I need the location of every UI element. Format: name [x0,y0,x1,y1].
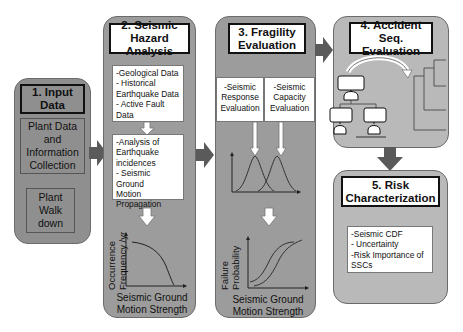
hazard-inputs-box: -Geological Data - Historical Earthquake… [112,65,184,122]
title-line: 1. Input [32,86,73,99]
seismic-hazard-title: 2. SeismicHazard Analysis [109,23,190,54]
text-line: Plant Data [26,120,79,133]
arrow-down-icon [276,122,286,156]
text-line: - Uncertainty [351,239,429,249]
text-line: -Seismic CDF [351,229,429,239]
text-line: Response [220,92,260,102]
text-line: -Geological Data [116,68,180,78]
text-line: - Active Fault [116,99,180,109]
hazard-curve-chart [124,232,188,288]
arrow-right-icon [196,142,214,168]
seismic-response-box: -Seismic Response Evaluation [216,77,264,122]
seismic-capacity-box: -Seismic Capacity Evaluation [264,77,315,122]
text-line: Frequency /yr [117,232,128,290]
text-line: Information [26,146,79,159]
text-line: Evaluation [268,103,311,113]
text-line: -Risk Importance of [351,250,429,260]
text-line: -Seismic [220,82,260,92]
text-line: Collection [26,159,79,172]
hazard-y-axis-label: Occurrence Frequency /yr [106,232,128,290]
fragility-x-axis-label: Seismic Ground Motion Strength [222,294,314,318]
arrow-down-icon [139,208,155,226]
text-line: -Analysis of [116,137,180,147]
risk-characterization-title: 5. RiskCharacterization [341,176,440,207]
text-line: Probability [230,246,241,290]
text-line: Walk [38,204,63,217]
text-line: - Historical [116,78,180,88]
plant-walkdown-box: Plant Walk down [26,188,75,233]
plant-data-collection-box: Plant Data and Information Collection [20,118,85,174]
text-line: Motion [116,189,180,199]
text-line: -Seismic [268,82,311,92]
title-line: 4. Accident [351,19,431,32]
text-line: Occurrence [106,232,117,290]
arrow-down-icon [261,208,277,226]
arrow-right-icon [315,37,333,63]
risk-results-box: -Seismic CDF - Uncertainty -Risk Importa… [347,226,433,273]
title-line: Data [32,99,73,112]
title-line: Seq. Evaluation [351,32,431,58]
text-line: Capacity [268,92,311,102]
fault-event-tree-diagram [334,58,448,142]
text-line: Earthquake [116,147,180,157]
fragility-curve-chart [246,236,310,290]
text-line: incidences [116,158,180,168]
text-line: Seismic Ground [222,294,314,306]
text-line: Motion Strength [108,304,196,316]
title-line: 2. Seismic [111,19,188,32]
fragility-title: 3. FragilityEvaluation [228,23,306,54]
text-line: Seismic Ground [108,292,196,304]
response-capacity-distribution-chart [230,152,302,194]
arrow-down-icon [377,147,403,171]
text-line: and [26,133,79,146]
title-line: Hazard Analysis [111,32,188,58]
hazard-analysis-box: -Analysis of Earthquake incidences - Sei… [112,134,184,200]
text-line: Motion Strength [222,306,314,318]
text-line: Evaluation [220,103,260,113]
title-line: Evaluation [238,39,296,52]
arrow-down-icon [250,122,260,156]
text-line: down [38,217,63,230]
text-line: Plant [38,191,63,204]
text-line: Earthquake Data [116,89,180,99]
fragility-y-axis-label: Failure Probability [219,246,241,290]
hazard-x-axis-label: Seismic Ground Motion Strength [108,292,196,316]
title-line: 3. Fragility [238,26,296,39]
text-line: Data [116,110,180,120]
text-line: SSCs [351,260,429,270]
accident-sequence-title: 4. AccidentSeq. Evaluation [349,22,433,54]
title-line: 5. Risk [345,179,435,192]
text-line: - Seismic Ground [116,168,180,189]
text-line: Failure [219,246,230,290]
input-data-title: 1. InputData [20,84,85,114]
title-line: Characterization [345,192,435,205]
